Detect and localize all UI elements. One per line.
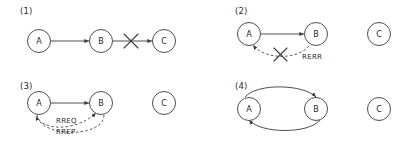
panel-1: (1) A B <box>0 0 205 75</box>
node-c-label: C <box>161 37 167 46</box>
edge-b-to-a <box>249 120 320 131</box>
panel-2: (2) RERR A <box>205 0 409 75</box>
panel-3: (3) RREQ RREP A B <box>0 75 205 150</box>
panel-2-diagram: RERR A B C <box>205 0 409 75</box>
node-a-label: A <box>246 30 252 39</box>
edge-label-rrep: RREP <box>56 128 76 136</box>
node-a-label: A <box>246 105 252 114</box>
panel-3-diagram: RREQ RREP A B C <box>0 75 205 150</box>
node-c-label: C <box>161 99 167 108</box>
node-b: B <box>305 98 328 121</box>
node-b: B <box>305 23 328 46</box>
node-a: A <box>28 30 51 53</box>
panel-4: (4) A B C <box>205 75 409 150</box>
node-b-label: B <box>313 105 319 114</box>
node-c: C <box>153 92 176 115</box>
panel-1-diagram: A B C <box>0 0 205 75</box>
node-c: C <box>368 23 391 46</box>
node-c-label: C <box>376 105 382 114</box>
node-b-label: B <box>313 30 319 39</box>
broken-link-icon <box>274 48 287 61</box>
edge-label-rreq: RREQ <box>56 117 77 125</box>
node-c-label: C <box>376 30 382 39</box>
node-a: A <box>28 92 51 115</box>
node-b-label: B <box>98 99 104 108</box>
node-c: C <box>368 98 391 121</box>
edge-label-rerr: RERR <box>302 53 322 61</box>
node-b-label: B <box>98 37 104 46</box>
node-b: B <box>90 92 113 115</box>
node-a: A <box>238 98 261 121</box>
panel-4-diagram: A B C <box>205 75 409 150</box>
node-a-label: A <box>36 99 42 108</box>
panel-grid: (1) A B <box>0 0 409 150</box>
node-b: B <box>90 30 113 53</box>
node-a: A <box>238 23 261 46</box>
node-c: C <box>153 30 176 53</box>
edge-a-to-b <box>245 87 316 97</box>
node-a-label: A <box>36 37 42 46</box>
